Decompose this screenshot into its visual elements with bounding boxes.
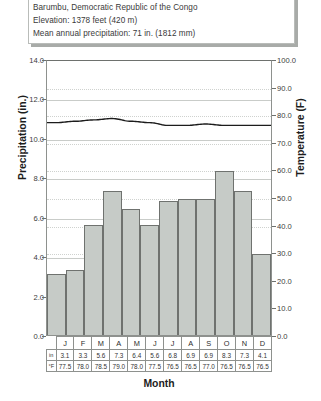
precipitation-cell: 6.8 (164, 350, 182, 361)
month-label-cell: O (218, 337, 236, 350)
y-tick-mark-right (272, 60, 276, 61)
month-label-cell: M (128, 337, 146, 350)
y-tick-label-right: 20.0 (277, 276, 321, 285)
precipitation-cell: 7.3 (236, 350, 254, 361)
table-row-temperature: °F77.578.078.579.078.077.576.576.577.076… (47, 361, 272, 372)
table-row-months: JFMAMJJASOND (47, 337, 272, 350)
y-tick-mark-right (272, 143, 276, 144)
y-tick-mark-right (272, 253, 276, 254)
y-tick-mark-right (272, 198, 276, 199)
precipitation-cell: 6.9 (200, 350, 218, 361)
location-name: Barumbu, Democratic Republic of the Cong… (33, 1, 289, 14)
month-label-cell: J (164, 337, 182, 350)
y-tick-label-left: 2.0 (0, 292, 44, 301)
climate-data-table: JFMAMJJASONDin3.13.35.67.36.45.66.86.96.… (46, 336, 272, 372)
month-label-cell: N (236, 337, 254, 350)
y-tick-label-right: 80.0 (277, 111, 321, 120)
month-label-cell: M (92, 337, 110, 350)
y-tick-label-left: 6.0 (0, 213, 44, 222)
temperature-cell: 78.0 (128, 361, 146, 372)
precipitation-cell: 4.1 (253, 350, 271, 361)
precipitation-cell: 5.6 (92, 350, 110, 361)
temperature-cell: 76.5 (218, 361, 236, 372)
y-tick-label-right: 90.0 (277, 83, 321, 92)
table-row-label: in (47, 350, 57, 361)
y-tick-mark-right (272, 336, 276, 337)
temperature-cell: 76.5 (253, 361, 271, 372)
y-tick-mark-right (272, 226, 276, 227)
temperature-line (47, 61, 271, 335)
precipitation-cell: 6.9 (182, 350, 200, 361)
climate-chart: Precipitation (in.) Temperature (F) Mont… (0, 54, 321, 401)
y-tick-mark-right (272, 281, 276, 282)
y-tick-label-left: 14.0 (0, 56, 44, 65)
precipitation-cell: 5.6 (146, 350, 164, 361)
temperature-cell: 76.5 (236, 361, 254, 372)
y-tick-mark-right (272, 115, 276, 116)
precipitation-cell: 6.4 (128, 350, 146, 361)
x-axis-label-month: Month (46, 378, 272, 389)
y-tick-label-right: 40.0 (277, 221, 321, 230)
location-info-box: Barumbu, Democratic Republic of the Cong… (28, 0, 295, 44)
y-tick-label-left: 4.0 (0, 253, 44, 262)
elevation-text: Elevation: 1378 feet (420 m) (33, 14, 289, 27)
precipitation-cell: 8.3 (218, 350, 236, 361)
month-label-cell: J (56, 337, 74, 350)
precipitation-cell: 7.3 (110, 350, 128, 361)
temperature-cell: 76.5 (182, 361, 200, 372)
y-tick-label-right: 10.0 (277, 304, 321, 313)
y-tick-label-right: 100.0 (277, 56, 321, 65)
precipitation-cell: 3.1 (56, 350, 74, 361)
temperature-cell: 77.5 (146, 361, 164, 372)
y-tick-label-left: 8.0 (0, 174, 44, 183)
y-tick-label-right: 0.0 (277, 332, 321, 341)
table-row-label: °F (47, 361, 57, 372)
temperature-cell: 78.0 (74, 361, 92, 372)
temperature-cell: 76.5 (164, 361, 182, 372)
temperature-cell: 77.0 (200, 361, 218, 372)
y-tick-mark-right (272, 308, 276, 309)
y-tick-label-left: 12.0 (0, 95, 44, 104)
month-label-cell: S (200, 337, 218, 350)
table-row-precipitation: in3.13.35.67.36.45.66.86.96.98.37.34.1 (47, 350, 272, 361)
y-tick-label-right: 70.0 (277, 138, 321, 147)
table-row-label (47, 337, 57, 350)
y-tick-label-left: 10.0 (0, 134, 44, 143)
month-label-cell: D (253, 337, 271, 350)
month-label-cell: J (146, 337, 164, 350)
y-tick-mark-right (272, 170, 276, 171)
y-tick-label-right: 30.0 (277, 249, 321, 258)
mean-precipitation-text: Mean annual precipitation: 71 in. (1812 … (33, 27, 289, 40)
precipitation-cell: 3.3 (74, 350, 92, 361)
y-tick-label-right: 50.0 (277, 194, 321, 203)
y-tick-label-right: 60.0 (277, 166, 321, 175)
month-label-cell: F (74, 337, 92, 350)
temperature-cell: 77.5 (56, 361, 74, 372)
temperature-cell: 79.0 (110, 361, 128, 372)
plot-area (46, 60, 272, 336)
y-tick-mark-right (272, 88, 276, 89)
month-label-cell: A (110, 337, 128, 350)
y-tick-label-left: 0.0 (0, 332, 44, 341)
month-label-cell: A (182, 337, 200, 350)
temperature-cell: 78.5 (92, 361, 110, 372)
